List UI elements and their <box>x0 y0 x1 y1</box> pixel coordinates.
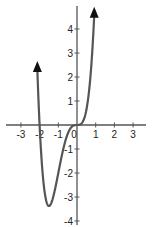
arrow-icons <box>33 7 99 72</box>
y-tick-label: 1 <box>67 96 73 107</box>
right-arrow-icon <box>90 7 99 18</box>
axes <box>6 6 146 225</box>
y-tick-label: 4 <box>67 24 73 35</box>
x-tick-label: 2 <box>112 129 118 140</box>
x-tick-label: 3 <box>130 129 136 140</box>
left-arrow-icon <box>33 61 42 72</box>
x-tick-label: -3 <box>16 129 25 140</box>
y-tick-label: -1 <box>64 144 73 155</box>
x-tick-label: -1 <box>54 129 63 140</box>
x-tick-label: 1 <box>93 129 99 140</box>
y-tick-label: 2 <box>67 72 73 83</box>
y-tick-label: 3 <box>67 48 73 59</box>
function-graph: -3-2-10123-4-3-2-11234 <box>0 0 152 227</box>
y-tick-label: -2 <box>64 168 73 179</box>
y-tick-label: -3 <box>64 192 73 203</box>
y-tick-label: -4 <box>64 216 73 227</box>
x-tick-label: 0 <box>71 129 77 140</box>
